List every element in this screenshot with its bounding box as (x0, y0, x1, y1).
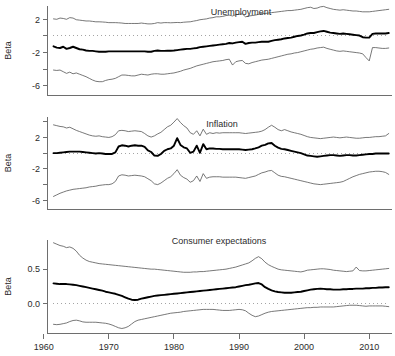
y-axis-title: Beta (3, 154, 13, 173)
series-median (54, 138, 389, 156)
x-tick-label: 1960 (34, 342, 54, 352)
y-tick-label: 2 (35, 15, 40, 25)
panel-title: Consumer expectations (172, 236, 267, 246)
panel-1: 2-2-6BetaUnemployment (3, 6, 392, 95)
panel-title: Inflation (206, 119, 238, 129)
y-axis-title: Beta (3, 277, 13, 296)
series-median (54, 31, 389, 52)
series-upper-band (54, 243, 389, 272)
y-tick-label: -2 (32, 164, 40, 174)
x-tick-label: 1970 (99, 342, 119, 352)
y-axis-title: Beta (3, 41, 13, 60)
series-median (54, 283, 389, 300)
y-tick-label: -2 (32, 48, 40, 58)
y-tick-label: 2 (35, 133, 40, 143)
x-tick-label: 1980 (164, 342, 184, 352)
x-tick-label: 1990 (229, 342, 249, 352)
series-lower-band (54, 170, 389, 197)
y-tick-label: -6 (32, 196, 40, 206)
y-tick-label: 0.5 (27, 264, 40, 274)
series-lower-band (54, 305, 389, 328)
y-tick-label: 0.0 (27, 299, 40, 309)
y-tick-label: -6 (32, 81, 40, 91)
panel-title: Unemployment (211, 7, 272, 17)
panel-3: 0.50.0Beta196019701980199020002010Consum… (3, 236, 392, 352)
x-tick-label: 2000 (294, 342, 314, 352)
x-tick-label: 2010 (359, 342, 379, 352)
chart-canvas: 2-2-6BetaUnemployment2-2-6BetaInflation0… (0, 0, 395, 356)
beta-coefficient-figure: 2-2-6BetaUnemployment2-2-6BetaInflation0… (0, 0, 395, 356)
panel-2: 2-2-6BetaInflation (3, 117, 392, 209)
